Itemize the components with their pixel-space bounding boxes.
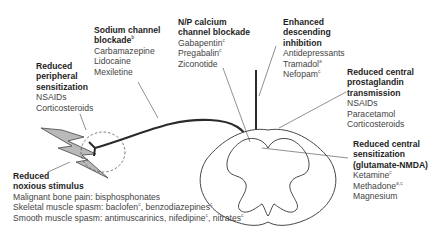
noxious-stimulus-group: Reduced noxious stimulus Malignant bone … xyxy=(13,171,243,223)
peripheral-title-3: sensitization xyxy=(36,82,93,92)
drug-gabapentin: Gabapentinc xyxy=(178,38,250,48)
drug-lidocaine: Lidocaine xyxy=(94,56,160,66)
pointer-prostaglandin xyxy=(279,92,346,128)
descending-inhibition-group: Enhanced descending inhibition Antidepre… xyxy=(283,17,345,79)
drug-ketamine: Ketaminec xyxy=(353,170,428,180)
noxious-line-smooth-spasm: Smooth muscle spasm: antimuscarinics, ni… xyxy=(13,213,243,223)
peripheral-title-1: Reduced xyxy=(36,61,93,71)
drug-tramadol: Tramadola xyxy=(283,59,345,69)
drug-corticosteroids-central: Corticosteroids xyxy=(347,119,414,129)
calcium-title-2: channel blockade xyxy=(178,27,250,37)
descending-title-1: Enhanced xyxy=(283,17,345,27)
central-sensitization-title-1: Reduced central xyxy=(353,139,428,149)
drug-antidepressants: Antidepressants xyxy=(283,48,345,58)
drug-mexiletine: Mexiletine xyxy=(94,67,160,77)
noxious-title-1: Reduced xyxy=(13,171,243,181)
drug-ziconotide: Ziconotide xyxy=(178,59,250,69)
drug-nefopam: Nefopamc xyxy=(283,69,345,79)
drug-nsaids-central: NSAIDs xyxy=(347,98,414,108)
pointer-calcium xyxy=(223,68,250,142)
sodium-channel-blockade-group: Sodium channel blockadeb Carbamazepine L… xyxy=(94,25,160,77)
pointer-peripheral xyxy=(80,114,86,130)
peripheral-title-2: peripheral xyxy=(36,71,93,81)
descending-title-2: descending xyxy=(283,27,345,37)
peripheral-sensitization-group: Reduced peripheral sensitization NSAIDs … xyxy=(36,61,93,113)
drug-magnesium: Magnesium xyxy=(353,191,428,201)
prostaglandin-title-1: Reduced central xyxy=(347,67,414,77)
sodium-title-2: blockadeb xyxy=(94,35,160,45)
noxious-line-skeletal-spasm: Skeletal muscle spasm: baclofenc, benzod… xyxy=(13,202,243,212)
drug-pregabalin: Pregabalinc xyxy=(178,48,250,58)
central-sensitization-title-2: sensitization xyxy=(353,149,428,159)
noxious-title-2: noxious stimulus xyxy=(13,181,243,191)
calcium-title-1: N/P calcium xyxy=(178,17,250,27)
drug-paracetamol: Paracetamol xyxy=(347,109,414,119)
descending-title-3: inhibition xyxy=(283,38,345,48)
sodium-title-1: Sodium channel xyxy=(94,25,160,35)
drug-corticosteroids: Corticosteroids xyxy=(36,103,93,113)
drug-carbamazepine: Carbamazepine xyxy=(94,46,160,56)
central-sensitization-group: Reduced central sensitization (glutamate… xyxy=(353,139,428,201)
prostaglandin-title-3: transmission xyxy=(347,88,414,98)
drug-methadone: Methadonea,c xyxy=(353,181,428,191)
pointer-sodium xyxy=(138,82,158,118)
prostaglandin-transmission-group: Reduced central prostaglandin transmissi… xyxy=(347,67,414,129)
pointer-descending xyxy=(259,46,276,96)
noxious-line-bone-pain: Malignant bone pain: bisphosphonates xyxy=(13,192,243,202)
prostaglandin-title-2: prostaglandin xyxy=(347,77,414,87)
drug-nsaids: NSAIDs xyxy=(36,92,93,102)
calcium-channel-blockade-group: N/P calcium channel blockade Gabapentinc… xyxy=(178,17,250,69)
